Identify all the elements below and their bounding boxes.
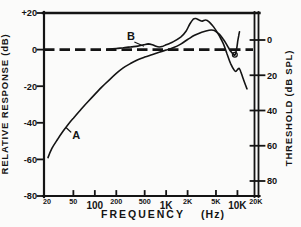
left-axis-tick-label: 0 bbox=[32, 45, 37, 55]
left-axis-tick-label: +20 bbox=[21, 8, 37, 18]
x-axis-tick-label: 5K bbox=[211, 197, 221, 206]
left-axis-tick-label: -20 bbox=[24, 82, 37, 92]
x-axis-tick-label: 2K bbox=[183, 197, 193, 206]
x-axis-tick-label: 500 bbox=[139, 197, 151, 206]
frequency-response-chart: +200-20-40-60-8020501002005001K2K5K10K20… bbox=[0, 0, 301, 227]
left-axis-title: RELATIVE RESPONSE (dB) bbox=[0, 34, 10, 175]
x-axis-tick-label: 20 bbox=[43, 197, 51, 206]
right-axis-tick-label: 80 bbox=[267, 176, 277, 186]
x-axis-tick-label: 200 bbox=[110, 197, 122, 206]
x-axis-title: FREQUENCY(Hz) bbox=[101, 208, 225, 220]
curve-label-b: B bbox=[127, 30, 143, 46]
plot-frame bbox=[43, 12, 260, 197]
right-axis-tick-label: 20 bbox=[267, 71, 277, 81]
x-axis-tick-label: 50 bbox=[69, 197, 77, 206]
frequency-response-figure: +200-20-40-60-8020501002005001K2K5K10K20… bbox=[0, 0, 301, 227]
curve-label-leader-line bbox=[66, 128, 70, 132]
left-axis-tick-label: -40 bbox=[24, 118, 37, 128]
x-axis-title-frequency: FREQUENCY bbox=[101, 208, 185, 220]
curve-label-text: B bbox=[127, 30, 135, 42]
left-axis-tick-label: -60 bbox=[24, 155, 37, 165]
right-axis-tick-label: 0 bbox=[267, 35, 272, 45]
right-axis-tick-label: 60 bbox=[267, 141, 277, 151]
left-axis-tick-label: -80 bbox=[24, 191, 37, 201]
right-axis-tick-label: 40 bbox=[267, 106, 277, 116]
x-axis-tick-label: 20K bbox=[249, 197, 263, 206]
x-axis-tick-label: 10K bbox=[228, 200, 247, 211]
x-axis-title-units: (Hz) bbox=[201, 208, 225, 220]
curve-label-a: A bbox=[66, 128, 80, 141]
right-axis-title: THRESHOLD (dB SPL) bbox=[283, 50, 294, 166]
left-axis: +200-20-40-60-80 bbox=[21, 8, 44, 201]
curve-label-text: A bbox=[72, 129, 80, 141]
